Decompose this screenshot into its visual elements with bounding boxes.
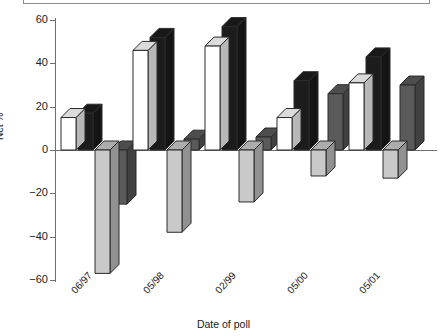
bar-05-01-series-3	[383, 141, 407, 178]
legend-frame	[23, 0, 430, 4]
bar-05-01-series-1	[349, 74, 373, 150]
y-tick-label: 40	[18, 56, 48, 68]
bar-05-98-series-2	[150, 28, 174, 150]
bar-06-97-series-1	[61, 109, 85, 150]
x-tick-label: 06/97	[69, 270, 94, 296]
y-tick	[50, 150, 56, 151]
bar-02-99-series-2	[222, 18, 246, 150]
y-tick-label: −40	[18, 230, 48, 242]
bar-05-98-series-3	[167, 141, 191, 232]
y-tick	[50, 20, 56, 21]
zero-baseline	[55, 150, 437, 151]
x-axis-title: Date of poll	[0, 318, 447, 330]
y-tick	[50, 280, 56, 281]
y-tick-label: −20	[18, 186, 48, 198]
y-tick-label: 20	[18, 100, 48, 112]
bar-05-00-series-1	[277, 109, 301, 150]
y-tick-label: 0	[18, 143, 48, 155]
bar-06-97-series-3	[95, 141, 119, 273]
bar-05-00-series-2	[294, 72, 318, 150]
bar-06-97-series-2	[78, 104, 102, 150]
y-tick	[50, 237, 56, 238]
y-tick	[50, 63, 56, 64]
bar-05-00-series-4	[328, 85, 352, 150]
bar-05-01-series-4	[400, 76, 424, 150]
bar-02-99-series-4	[256, 128, 280, 150]
bar-05-98-series-1	[133, 41, 157, 150]
bar-05-01-series-2	[366, 48, 390, 150]
y-tick-label: 60	[18, 13, 48, 25]
chart-figure: Net % Date of poll 6040200−20−40−60 06/9…	[0, 0, 447, 336]
bar-05-00-series-3	[311, 141, 335, 176]
y-tick	[50, 107, 56, 108]
x-tick-label: 02/99	[213, 270, 238, 296]
bar-05-98-series-4	[184, 130, 208, 150]
x-tick-label: 05/01	[357, 270, 382, 296]
x-tick-label: 05/98	[141, 270, 166, 296]
y-tick	[50, 193, 56, 194]
x-tick-label: 05/00	[285, 270, 310, 296]
y-axis-title: Net %	[0, 113, 5, 140]
bar-02-99-series-1	[205, 37, 229, 150]
y-tick-label: −60	[18, 273, 48, 285]
